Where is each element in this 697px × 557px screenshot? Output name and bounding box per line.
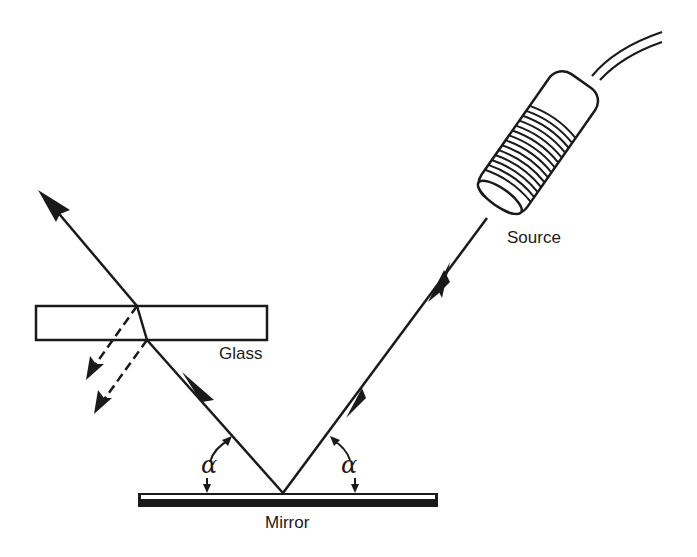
mirror-label: Mirror: [265, 513, 309, 533]
source-label: Source: [507, 228, 561, 248]
glass-label: Glass: [219, 344, 262, 364]
angle-alpha-right: α: [341, 451, 357, 479]
angle-alpha-left: α: [201, 451, 217, 479]
incident-beam: [283, 218, 487, 493]
transmitted-arrow-icon: [38, 190, 70, 222]
partial-reflection-arrow-lower-icon: [94, 390, 112, 414]
mirror: [138, 493, 438, 507]
partial-reflection-arrow-upper-icon: [86, 356, 104, 380]
reflected-beam: [38, 190, 283, 493]
source-cable: [592, 32, 662, 76]
glass-plate: [36, 306, 267, 340]
light-source: [472, 32, 662, 221]
